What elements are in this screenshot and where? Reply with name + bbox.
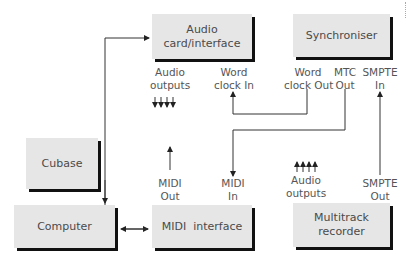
- synchroniser-box: Synchroniser: [293, 14, 390, 57]
- computer-box: Computer: [14, 205, 115, 248]
- computer-label: Computer: [37, 220, 92, 234]
- cubase-label: Cubase: [42, 157, 83, 171]
- cubase-box: Cubase: [26, 138, 98, 189]
- multitrack-label: Multitrack recorder: [307, 211, 377, 239]
- midi-interface-box: MIDI interface: [152, 205, 252, 248]
- midi-out-label: MIDIOut: [155, 177, 185, 203]
- smpte-out-label: SMPTEOut: [362, 177, 398, 203]
- smpte-in-label: SMPTEIn: [362, 66, 398, 92]
- page-edge-dots: [405, 2, 408, 18]
- word-clock-in-label: Wordclock In: [212, 66, 256, 92]
- audio-card-interface-box: Audio card/interface: [152, 14, 252, 59]
- word-clock-out-label: Wordclock Out: [284, 66, 332, 92]
- synchroniser-label: Synchroniser: [306, 29, 378, 43]
- mtc-out-label: MTCOut: [331, 66, 359, 92]
- audio-outputs-bottom-label: Audiooutputs: [286, 174, 326, 200]
- midi-in-label: MIDIIn: [218, 177, 248, 203]
- midi-interface-label: MIDI interface: [162, 220, 243, 234]
- multitrack-recorder-box: Multitrack recorder: [293, 203, 390, 247]
- audio-outputs-top-label: Audiooutputs: [150, 66, 190, 92]
- audio-card-label: Audio card/interface: [162, 23, 242, 51]
